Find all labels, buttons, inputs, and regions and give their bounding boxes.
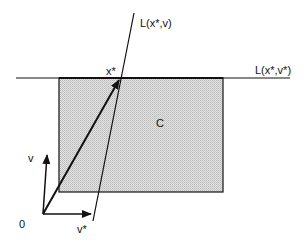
label-line-l-xstar-vstar: L(x*,v*): [255, 64, 291, 76]
label-vector-vstar: v*: [77, 223, 88, 235]
label-set-c: C: [156, 117, 164, 129]
label-vector-v: v: [28, 152, 34, 164]
label-line-l-xstar-v: L(x*,v): [140, 17, 172, 29]
set-c-region: [59, 78, 223, 192]
label-point-xstar: x*: [106, 65, 117, 77]
vector-v: [43, 155, 47, 214]
convex-set-diagram: L(x*,v) L(x*,v*) x* C v v* 0: [0, 0, 308, 249]
label-origin: 0: [19, 218, 25, 230]
